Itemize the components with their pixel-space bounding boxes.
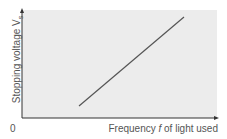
y-axis-label: Stopping voltage Vs bbox=[11, 10, 24, 110]
data-line bbox=[79, 17, 184, 106]
origin-label: 0 bbox=[10, 123, 16, 134]
x-axis-arrow-icon bbox=[214, 116, 219, 120]
chart-svg bbox=[0, 0, 227, 139]
x-axis-label: Frequency f of light used bbox=[108, 123, 218, 134]
